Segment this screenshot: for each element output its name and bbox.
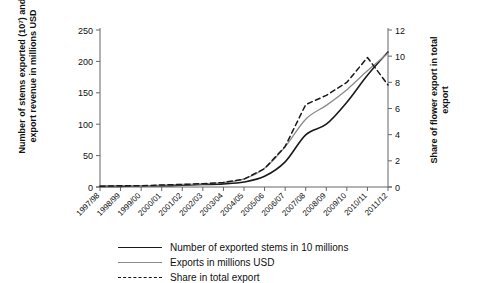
legend-line-dashed-icon [118,273,162,283]
series-line-1 [100,53,388,186]
y-axis-right-tick-label: 12 [395,26,405,36]
y-axis-right-tick-label: 4 [395,130,400,140]
legend-label-share: Share in total export [170,272,260,283]
series-line-2 [100,57,388,186]
y-axis-left-tick-label: 250 [78,26,93,36]
plot-area: 0501001502002500246810121997/981998/9919… [0,0,482,240]
y-axis-left-tick-label: 150 [78,88,93,98]
legend-line-solid-black-icon [118,243,162,253]
y-axis-right-tick-label: 8 [395,78,400,88]
y-axis-left-tick-label: 0 [88,183,93,193]
x-axis-tick-label: 2011/12 [363,191,390,218]
y-axis-right-tick-label: 0 [395,183,400,193]
y-axis-right-tick-label: 10 [395,52,405,62]
legend-line-solid-gray-icon [118,258,162,268]
legend-label-stems: Number of exported stems in 10 millions [170,242,348,253]
legend-item-stems: Number of exported stems in 10 millions [118,240,348,255]
chart-legend: Number of exported stems in 10 millions … [118,240,348,283]
chart-figure: Number of stems exported (10⁷) and expor… [0,0,482,283]
legend-item-share: Share in total export [118,270,348,283]
y-axis-right-tick-label: 6 [395,104,400,114]
legend-item-exports: Exports in millions USD [118,255,348,270]
y-axis-left-tick-label: 50 [83,151,93,161]
series-line-0 [100,52,388,186]
y-axis-left-tick-label: 200 [78,57,93,67]
y-axis-right-tick-label: 2 [395,156,400,166]
y-axis-left-tick-label: 100 [78,120,93,130]
legend-label-exports: Exports in millions USD [170,257,274,268]
